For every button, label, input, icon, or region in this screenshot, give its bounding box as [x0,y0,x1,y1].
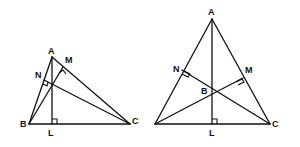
figure-left: A M N B C L [20,46,139,138]
label-m: M [65,55,73,65]
right-angle-l [212,119,217,124]
label-b: B [201,86,208,96]
label-n: N [173,64,180,74]
label-l: L [209,128,215,138]
label-a: A [48,46,55,56]
label-a: A [208,7,215,17]
label-c: C [132,116,139,126]
right-angle-m [59,70,66,74]
figure-right: A N M B C L [155,7,279,138]
side-right [212,19,270,124]
label-b: B [20,119,27,129]
altitude-to-n [182,70,270,124]
label-n: N [35,70,42,80]
diagram-canvas: A M N B C L A N M B C L [0,0,300,147]
label-c: C [272,119,279,129]
label-l: L [48,128,54,138]
right-angle-l [52,119,57,124]
right-angle-m [236,79,244,85]
label-m: M [245,65,253,75]
